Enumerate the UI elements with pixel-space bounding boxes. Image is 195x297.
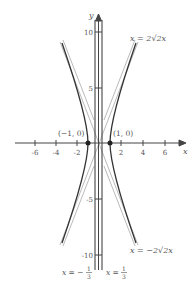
svg-text:1: 1	[87, 265, 91, 272]
point-1-0	[108, 141, 113, 146]
svg-text:-10: -10	[82, 252, 93, 260]
svg-text:10: 10	[84, 29, 93, 37]
x-axis-arrow-icon	[179, 140, 186, 146]
y-axis-label: y	[88, 11, 94, 20]
point-neg1-0	[86, 141, 91, 146]
point-label-1: (1, 0)	[113, 129, 133, 138]
hyperbola-diagram: -6 -4 -2 2 4 6 x 10 5 -5 -10 y (−1, 0) (…	[0, 0, 195, 297]
svg-text:x =: x =	[106, 268, 119, 277]
svg-text:5: 5	[89, 85, 93, 93]
svg-text:3: 3	[87, 273, 91, 280]
svg-text:1: 1	[122, 265, 126, 272]
svg-text:2: 2	[119, 149, 123, 157]
x-tick-labels: -6 -4 -2 2 4 6	[32, 149, 168, 157]
svg-text:6: 6	[163, 149, 168, 157]
svg-text:3: 3	[122, 273, 126, 280]
right-vertical-label: x = 1 3	[106, 265, 127, 280]
x-axis-label: x	[183, 147, 188, 156]
svg-text:-4: -4	[53, 149, 60, 157]
axes	[15, 14, 186, 270]
svg-text:-2: -2	[74, 149, 81, 157]
lower-curve-label: x = −2√2x	[130, 246, 173, 255]
upper-curve-label: x = 2√2x	[130, 34, 167, 43]
y-axis-arrow-icon	[96, 14, 102, 21]
svg-text:x = −: x = −	[62, 268, 84, 277]
svg-text:-5: -5	[86, 196, 93, 204]
point-label-neg1: (−1, 0)	[58, 129, 85, 138]
left-vertical-label: x = − 1 3	[62, 265, 92, 280]
svg-text:4: 4	[141, 149, 146, 157]
svg-text:-6: -6	[32, 149, 39, 157]
